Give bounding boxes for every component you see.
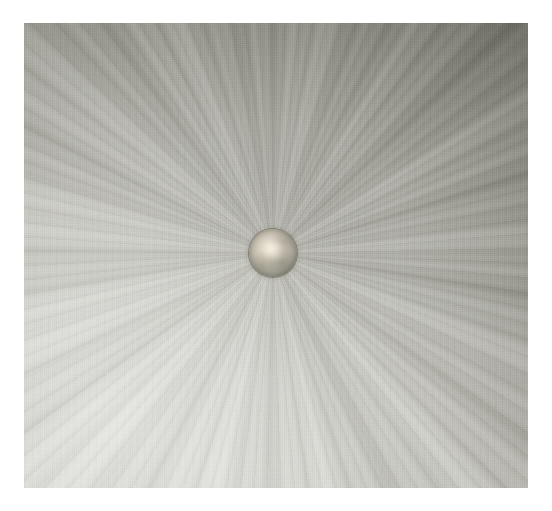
artwork-pattern-label: radial zoom-blur streaks converging on a… [0, 0, 1, 1]
artwork-medium-label: oil-on-canvas [0, 0, 1, 1]
artwork-stage: radial-burst-painting radial zoom-blur s… [0, 0, 552, 511]
central-sphere [249, 229, 297, 277]
artwork-subject-label: radial-burst-painting [0, 0, 1, 1]
central-sphere-highlight [262, 241, 283, 260]
painting-canvas [24, 23, 528, 488]
